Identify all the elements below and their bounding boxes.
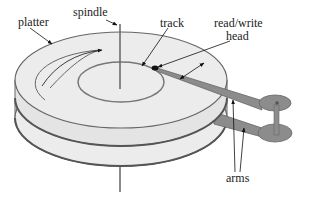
upper-platter — [15, 32, 227, 146]
platter-pointer — [30, 28, 52, 44]
lower-arm — [214, 112, 292, 142]
label-track: track — [160, 17, 184, 29]
arms-pointer-upper — [233, 100, 235, 172]
spindle-pointer — [106, 20, 117, 25]
arms-pointer-lower — [240, 128, 244, 172]
label-head-line1: read/write — [214, 17, 263, 29]
label-spindle: spindle — [73, 6, 108, 18]
read-write-head — [152, 66, 159, 71]
label-arms: arms — [226, 172, 249, 184]
hard-disk-diagram — [0, 0, 310, 201]
label-platter: platter — [18, 16, 49, 28]
label-head-line2: head — [226, 30, 249, 42]
